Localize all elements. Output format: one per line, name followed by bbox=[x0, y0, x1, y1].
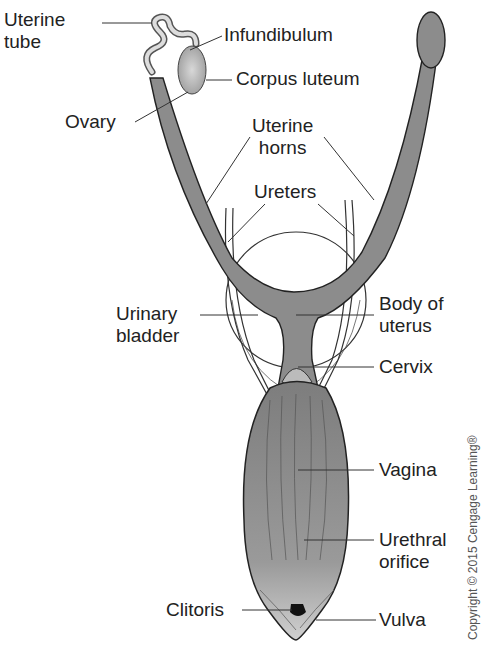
copyright-notice: Copyright © 2015 Cengage Learning® bbox=[466, 436, 480, 641]
label-urinary-bladder: Urinary bladder bbox=[116, 303, 179, 347]
reproductive-tract-diagram: Uterine tube Infundibulum Corpus luteum … bbox=[0, 0, 491, 662]
label-body-of-uterus: Body of uterus bbox=[379, 293, 443, 337]
label-ovary: Ovary bbox=[65, 111, 116, 133]
label-ureters: Ureters bbox=[254, 181, 316, 203]
label-urethral-orifice: Urethral orifice bbox=[379, 529, 447, 573]
label-clitoris: Clitoris bbox=[166, 599, 224, 621]
vagina-shape bbox=[244, 382, 349, 641]
label-uterine-tube: Uterine tube bbox=[4, 9, 65, 53]
uterus-shape bbox=[150, 55, 437, 388]
label-cervix: Cervix bbox=[379, 356, 433, 378]
label-corpus-luteum: Corpus luteum bbox=[236, 68, 360, 90]
label-uterine-horns: Uterine horns bbox=[252, 115, 313, 159]
label-infundibulum: Infundibulum bbox=[224, 24, 333, 46]
ovary-shape bbox=[178, 46, 206, 94]
uterine-horn-tip bbox=[417, 12, 445, 68]
label-vagina: Vagina bbox=[379, 459, 437, 481]
label-vulva: Vulva bbox=[379, 609, 426, 631]
